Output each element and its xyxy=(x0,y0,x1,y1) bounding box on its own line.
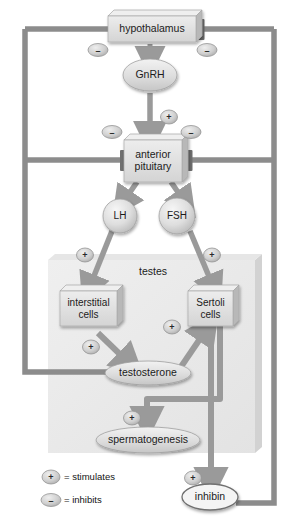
node-lh-shape xyxy=(103,199,137,233)
badge-plus-to-inhibin xyxy=(185,471,202,485)
legend-badge-plus xyxy=(42,470,60,484)
badge-minus-pituitary-left xyxy=(102,126,122,139)
hormone-feedback-diagram: hypothalamus GnRH anterior pituitary LH … xyxy=(0,0,291,519)
node-interstitial-cells-shape xyxy=(60,285,123,326)
badge-plus-fsh-to-sertoli xyxy=(204,248,221,262)
legend-label-inhibits: = inhibits xyxy=(64,494,102,505)
diagram-canvas xyxy=(0,0,291,519)
node-anterior-pituitary-shape xyxy=(124,134,188,182)
badge-minus-hypothalamus-left xyxy=(88,44,108,57)
badge-plus-gnrh-to-pituitary xyxy=(161,110,178,124)
badge-minus-hypothalamus-right xyxy=(197,44,217,57)
badge-minus-pituitary-right xyxy=(181,126,201,139)
node-gnrh-shape xyxy=(123,59,177,91)
legend-badge-minus xyxy=(41,494,61,507)
arrow-pituitary-to-lh xyxy=(124,182,137,201)
badge-plus-to-spermatogenesis xyxy=(124,411,141,425)
node-inhibin-shape xyxy=(182,484,238,510)
node-spermatogenesis-shape xyxy=(96,427,200,453)
node-sertoli-cells-shape xyxy=(188,285,239,326)
node-testosterone-shape xyxy=(105,361,191,385)
legend-label-stimulates: = stimulates xyxy=(64,471,115,482)
node-fsh-shape xyxy=(159,198,195,234)
badge-plus-testosterone-to-sertoli xyxy=(164,320,181,334)
node-hypothalamus-shape xyxy=(108,10,202,42)
badge-plus-interstitial-to-testosterone xyxy=(83,340,100,354)
testes-panel xyxy=(48,254,262,453)
badge-plus-lh-to-interstitial xyxy=(77,248,94,262)
